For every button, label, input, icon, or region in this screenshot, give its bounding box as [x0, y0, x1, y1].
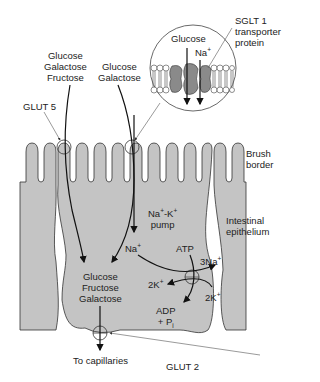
label-galactose: Galactose [44, 61, 87, 72]
na-text: Na [125, 243, 137, 254]
plus-sup: + [217, 255, 221, 262]
inset-glucose-label: Glucose [171, 33, 206, 44]
border-word: border [246, 159, 273, 170]
lumen-sugars-left: Glucose Galactose Fructose [44, 50, 87, 83]
label-fructose: Fructose [44, 72, 87, 83]
na-text: Na [148, 208, 160, 219]
label-glucose: Glucose [79, 271, 122, 282]
cell-na-label: Na+ [125, 243, 141, 254]
plus-sup: + [217, 291, 221, 298]
three-na-label: 3Na+ [200, 256, 221, 267]
plus-sup: + [137, 242, 141, 249]
pi-text: + Pi [156, 316, 176, 327]
label-galactose: Galactose [79, 293, 122, 304]
three-na-text: 3Na [200, 256, 217, 267]
sglt1-protein [170, 64, 211, 95]
left-cell [20, 143, 58, 330]
epithelium-word: epithelium [226, 226, 269, 237]
glut2-label: GLUT 2 [166, 361, 199, 372]
inset-na-label: Na+ [195, 47, 211, 58]
inset-leader [135, 103, 160, 140]
plus-sup: + [173, 207, 177, 214]
pi-word: + P [158, 316, 173, 327]
to-capillaries-label: To capillaries [73, 355, 128, 366]
glut5-leader [44, 112, 60, 140]
two-k-right-label: 2K+ [205, 292, 220, 303]
pump-label: Na+-K+ pump [148, 208, 177, 230]
two-k-left-label: 2K+ [148, 279, 163, 290]
sglt1-label: SGLT 1 transporter protein [235, 15, 281, 48]
label-fructose: Fructose [79, 282, 122, 293]
lumen-sugars-right: Glucose Galactose [98, 61, 141, 83]
glut2-leader [110, 333, 260, 355]
cell-sugars-label: Glucose Fructose Galactose [79, 271, 122, 304]
plus-sup: + [160, 278, 164, 285]
two-k-text: 2K [148, 279, 160, 290]
atp-label: ATP [176, 243, 194, 254]
label-galactose: Galactose [98, 72, 141, 83]
pump-ions: Na+-K+ [148, 208, 177, 219]
brush-word: Brush [246, 148, 273, 159]
two-k-text: 2K [205, 292, 217, 303]
sglt1-word-transporter: transporter [235, 26, 281, 37]
intestinal-epithelium-label: Intestinal epithelium [226, 215, 269, 237]
na-text: Na [195, 47, 207, 58]
plus-sup: + [207, 46, 211, 53]
pi-sub: i [172, 322, 173, 329]
sglt1-word-protein: protein [235, 37, 281, 48]
middle-cell [58, 143, 214, 333]
brush-border-label: Brush border [246, 148, 273, 170]
adp-text: ADP [156, 305, 176, 316]
label-glucose: Glucose [98, 61, 141, 72]
sglt1-name: SGLT 1 [235, 15, 281, 26]
label-glucose: Glucose [44, 50, 87, 61]
adp-pi-label: ADP + Pi [156, 305, 176, 327]
intestinal-word: Intestinal [226, 215, 269, 226]
pump-word: pump [148, 219, 177, 230]
glut5-label: GLUT 5 [23, 101, 56, 112]
